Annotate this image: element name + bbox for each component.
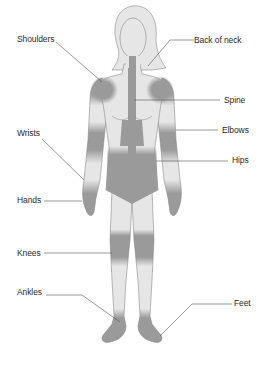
label-hips: Hips <box>232 155 249 165</box>
label-spine: Spine <box>224 95 245 105</box>
label-elbows: Elbows <box>222 125 249 135</box>
label-ankles: Ankles <box>17 287 42 297</box>
right-leg <box>132 190 162 342</box>
shoulder-left-region <box>90 76 118 104</box>
label-feet: Feet <box>234 298 251 308</box>
label-wrists: Wrists <box>17 128 40 138</box>
leader-shoulders <box>56 42 102 82</box>
body-diagram <box>0 0 264 365</box>
label-knees: Knees <box>17 248 41 258</box>
leader-wrists <box>42 139 84 180</box>
label-back-of-neck: Back of neck <box>194 35 241 45</box>
label-hands: Hands <box>17 195 41 205</box>
leader-feet <box>160 304 232 336</box>
leader-ankles <box>46 295 120 322</box>
head <box>120 18 146 58</box>
label-shoulders: Shoulders <box>17 34 54 44</box>
